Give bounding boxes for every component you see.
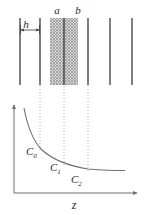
curve-label-c2: C2 <box>71 173 82 188</box>
x-axis-label: z <box>71 198 77 212</box>
concentration-curve <box>24 108 125 171</box>
region-label-a: a <box>54 4 60 16</box>
region-label-b: b <box>75 4 81 16</box>
diagram-svg: h a b C0 C1 C2 z <box>0 0 146 215</box>
figure-container: h a b C0 C1 C2 z <box>0 0 146 215</box>
spacing-label: h <box>23 18 29 30</box>
curve-label-c1: C1 <box>50 161 61 176</box>
curve-label-c0: C0 <box>26 145 37 160</box>
guide-lines-group <box>40 86 88 172</box>
